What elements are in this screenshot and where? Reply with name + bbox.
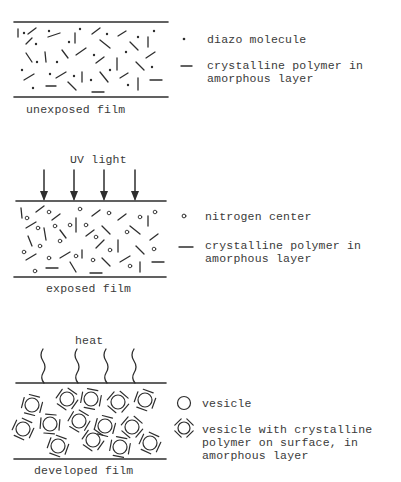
polymer-dashes: [18, 28, 162, 92]
caption-developed-film: developed film: [34, 464, 133, 477]
legend-polymer-line1: crystalline polymer in: [207, 59, 363, 72]
legend-vesicle-polymer-line2: polymer on surface, in: [202, 436, 358, 449]
diazo-dots: [21, 28, 155, 89]
heat-label: heat: [75, 334, 103, 347]
legend-polymer-line2: amorphous layer: [207, 72, 314, 85]
legend-polymer-line2: amorphous layer: [205, 252, 312, 265]
caption-unexposed-film: unexposed film: [26, 103, 125, 116]
vesicle-with-polymer-legend-icon: [175, 419, 193, 437]
caption-exposed-film: exposed film: [46, 282, 131, 295]
heat-waves: [41, 349, 136, 383]
legend-vesicle-polymer-line3: amorphous layer: [202, 449, 309, 462]
legend-polymer-line1: crystalline polymer in: [205, 239, 361, 252]
developed-film-layer: [12, 349, 193, 459]
uv-arrows: [44, 170, 135, 199]
polymer-dashes: [21, 206, 164, 273]
nitrogen-center-legend-icon: [182, 214, 186, 218]
legend-nitrogen-center: nitrogen center: [205, 210, 312, 223]
vesicle-legend-icon: [178, 397, 191, 410]
legend-diazo-molecule: diazo molecule: [207, 33, 306, 46]
exposed-film-layer: [14, 170, 193, 277]
nitrogen-centers: [22, 207, 157, 273]
vesicles-with-polymer: [12, 388, 161, 457]
uv-light-label: UV light: [70, 153, 127, 166]
legend-vesicle-polymer-line1: vesicle with crystalline: [202, 423, 372, 436]
diazo-dot-legend-icon: [183, 38, 186, 41]
legend-vesicle: vesicle: [202, 397, 252, 410]
unexposed-film-layer: [14, 22, 192, 97]
